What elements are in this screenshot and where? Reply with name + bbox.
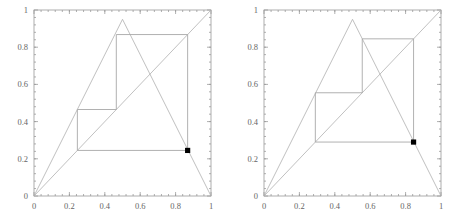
x-tick-label: 0.6 [365, 201, 376, 211]
left-plot-axes: 00.20.40.60.8100.20.40.60.81 [17, 5, 213, 211]
y-tick-label: 0 [24, 191, 28, 201]
right-plot-panel: 00.20.40.60.8100.20.40.60.81 [230, 0, 461, 224]
y-tick-label: 0.4 [17, 117, 28, 127]
y-tick-label: 1 [24, 5, 28, 15]
left-plot-panel: 00.20.40.60.8100.20.40.60.81 [0, 0, 230, 224]
tent-map-curve [34, 19, 211, 196]
figure-root: 00.20.40.60.8100.20.40.60.81 00.20.40.60… [0, 0, 461, 224]
x-tick-label: 1 [209, 201, 213, 211]
x-tick-label: 0.2 [294, 201, 305, 211]
y-tick-label: 0.8 [247, 42, 258, 52]
x-tick-label: 0.2 [64, 201, 75, 211]
y-tick-label: 0.2 [17, 154, 28, 164]
x-tick-label: 1 [439, 201, 443, 211]
x-tick-label: 0.6 [135, 201, 146, 211]
y-tick-label: 1 [254, 5, 258, 15]
orbit-point-marker [185, 148, 190, 153]
x-tick-label: 0 [32, 201, 36, 211]
y-tick-label: 0.2 [247, 154, 258, 164]
right-plot-svg: 00.20.40.60.8100.20.40.60.81 [230, 0, 461, 224]
x-tick-label: 0.4 [329, 201, 340, 211]
y-tick-label: 0.4 [247, 117, 258, 127]
y-tick-label: 0.6 [247, 79, 258, 89]
x-tick-label: 0 [262, 201, 266, 211]
x-tick-label: 0.8 [170, 201, 181, 211]
y-tick-label: 0 [254, 191, 258, 201]
orbit-point-marker [411, 139, 416, 144]
right-plot-axes: 00.20.40.60.8100.20.40.60.81 [247, 5, 443, 211]
identity-line [34, 10, 211, 196]
x-tick-label: 0.4 [99, 201, 110, 211]
left-plot-svg: 00.20.40.60.8100.20.40.60.81 [0, 0, 230, 224]
identity-line [264, 10, 441, 196]
y-tick-label: 0.8 [17, 42, 28, 52]
tent-map-curve [264, 19, 441, 196]
x-tick-label: 0.8 [400, 201, 411, 211]
y-tick-label: 0.6 [17, 79, 28, 89]
